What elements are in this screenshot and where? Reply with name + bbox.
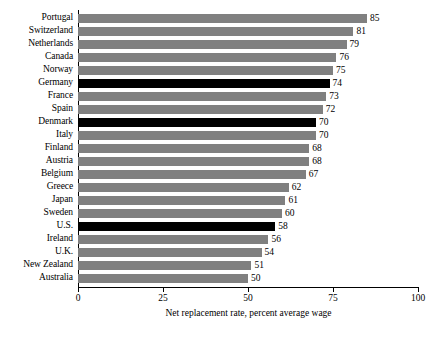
x-tick-mark [163, 288, 164, 292]
category-label: Finland [0, 143, 73, 153]
bar-value-label: 70 [319, 130, 329, 142]
category-label: Denmark [0, 117, 73, 127]
category-label: Portugal [0, 13, 73, 23]
category-label: Germany [0, 78, 73, 88]
category-label: Belgium [0, 169, 73, 179]
bar [78, 14, 367, 22]
bar-row: 76 [78, 51, 418, 65]
bar-row: 61 [78, 194, 418, 208]
bar-value-label: 74 [333, 78, 343, 90]
x-tick-mark [78, 288, 79, 292]
bar-value-label: 73 [329, 91, 339, 103]
bar-value-label: 58 [278, 221, 288, 233]
x-axis-ticks: 0255075100 [78, 288, 419, 308]
category-axis-labels: PortugalSwitzerlandNetherlandsCanadaNorw… [0, 12, 75, 285]
x-tick-mark [418, 288, 419, 292]
bar-value-label: 67 [309, 169, 319, 181]
bar-row: 67 [78, 168, 418, 182]
bar-value-label: 60 [285, 208, 295, 220]
x-tick-mark [248, 288, 249, 292]
bar [78, 222, 275, 230]
bar-value-label: 70 [319, 117, 329, 129]
bar-chart: PortugalSwitzerlandNetherlandsCanadaNorw… [0, 0, 440, 337]
bar-row: 62 [78, 181, 418, 195]
x-tick-mark [333, 288, 334, 292]
bar-row: 54 [78, 246, 418, 260]
bar [78, 274, 248, 282]
bar-value-label: 51 [254, 260, 264, 272]
bar-value-label: 62 [292, 182, 302, 194]
category-label: U.S. [0, 221, 73, 231]
category-label: Italy [0, 130, 73, 140]
category-label: U.K. [0, 247, 73, 257]
category-label: Austria [0, 156, 73, 166]
bar [78, 183, 289, 191]
bar-row: 50 [78, 272, 418, 286]
plot-area: 8581797675747372707068686762616058565451… [78, 12, 418, 285]
category-label: Canada [0, 52, 73, 62]
category-label: New Zealand [0, 260, 73, 270]
bar-value-label: 56 [271, 234, 281, 246]
bar-value-label: 61 [288, 195, 298, 207]
bar-row: 70 [78, 116, 418, 130]
bar-row: 85 [78, 12, 418, 26]
category-label: Norway [0, 65, 73, 75]
bar [78, 248, 262, 256]
bar-row: 68 [78, 155, 418, 169]
bar-value-label: 81 [356, 26, 366, 38]
bar-value-label: 76 [339, 52, 349, 64]
bar [78, 105, 323, 113]
bar-row: 75 [78, 64, 418, 78]
bar [78, 66, 333, 74]
bar-row: 81 [78, 25, 418, 39]
bar-row: 74 [78, 77, 418, 91]
bar-row: 60 [78, 207, 418, 221]
bar [78, 170, 306, 178]
bar-row: 70 [78, 129, 418, 143]
bar [78, 131, 316, 139]
bar [78, 27, 353, 35]
category-label: Spain [0, 104, 73, 114]
category-label: Netherlands [0, 39, 73, 49]
bar [78, 79, 330, 87]
bar-value-label: 72 [326, 104, 336, 116]
bar [78, 144, 309, 152]
x-tick-label: 75 [328, 293, 338, 304]
bar-value-label: 54 [265, 247, 275, 259]
bar-value-label: 75 [336, 65, 346, 77]
bar [78, 196, 285, 204]
category-label: Greece [0, 182, 73, 192]
bar-value-label: 79 [350, 39, 360, 51]
bar-value-label: 50 [251, 273, 261, 285]
bar-row: 56 [78, 233, 418, 247]
bar [78, 261, 251, 269]
category-label: Sweden [0, 208, 73, 218]
x-tick-label: 100 [411, 293, 425, 304]
category-label: Ireland [0, 234, 73, 244]
bar-value-label: 68 [312, 156, 322, 168]
bar-row: 72 [78, 103, 418, 117]
bar-value-label: 68 [312, 143, 322, 155]
category-label: Australia [0, 273, 73, 283]
x-tick-label: 0 [76, 293, 81, 304]
bar-row: 51 [78, 259, 418, 273]
category-label: Switzerland [0, 26, 73, 36]
bar-row: 58 [78, 220, 418, 234]
category-label: France [0, 91, 73, 101]
bar [78, 92, 326, 100]
bar-row: 68 [78, 142, 418, 156]
category-label: Japan [0, 195, 73, 205]
bar [78, 157, 309, 165]
x-axis-title: Net replacement rate, percent average wa… [78, 307, 419, 319]
bar [78, 209, 282, 217]
bar [78, 235, 268, 243]
x-tick-label: 25 [158, 293, 168, 304]
bar-row: 79 [78, 38, 418, 52]
bar [78, 118, 316, 126]
bar-row: 73 [78, 90, 418, 104]
bar [78, 53, 336, 61]
bar-value-label: 85 [370, 13, 380, 25]
bar [78, 40, 347, 48]
x-tick-label: 50 [243, 293, 253, 304]
